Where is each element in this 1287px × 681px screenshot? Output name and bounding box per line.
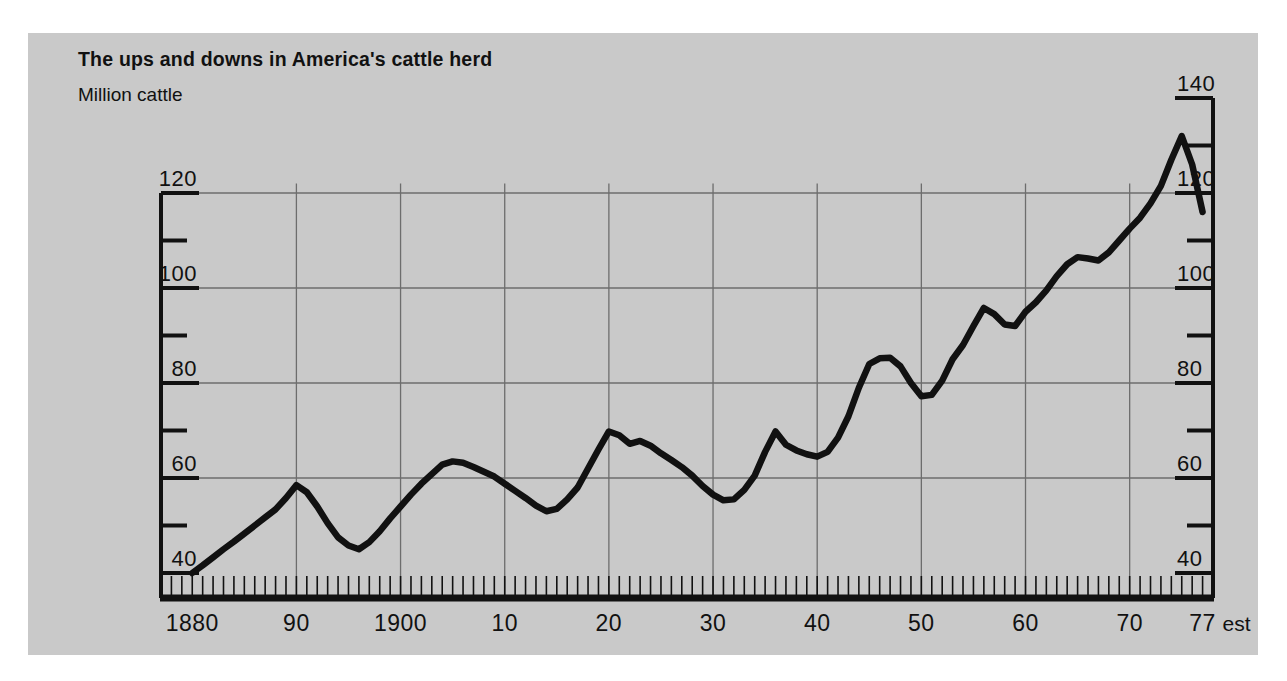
chart-page: The ups and downs in America's cattle he…	[0, 0, 1287, 681]
x-axis-label: 1880	[166, 610, 219, 637]
y-axis-label-left: 40	[172, 546, 197, 572]
data-series-group	[192, 136, 1202, 573]
y-axis-label-right: 140	[1177, 71, 1215, 97]
x-axis-est-annotation: est	[1223, 612, 1251, 636]
x-axis-label: 10	[491, 610, 518, 637]
x-axis-label: 50	[908, 610, 935, 637]
x-axis-label: 90	[283, 610, 310, 637]
x-axis-label: 20	[596, 610, 623, 637]
x-axis-label: 1900	[374, 610, 427, 637]
y-axis-label-right: 80	[1177, 356, 1202, 382]
y-axis-label-left: 80	[172, 356, 197, 382]
y-axis-label-right: 100	[1177, 261, 1215, 287]
data-line-cattle-herd	[192, 136, 1202, 573]
chart-plot-area	[0, 0, 1287, 681]
y-axis-label-left: 100	[159, 261, 197, 287]
gridlines-group	[161, 184, 1213, 599]
y-axis-label-left: 120	[159, 166, 197, 192]
y-axis-label-right: 40	[1177, 546, 1202, 572]
x-axis-label: 70	[1116, 610, 1143, 637]
x-axis-label: 40	[804, 610, 831, 637]
y-axis-label-right: 120	[1177, 166, 1215, 192]
axes-group	[160, 98, 1214, 598]
x-axis-label: 77	[1189, 610, 1216, 637]
y-axis-label-left: 60	[172, 451, 197, 477]
y-axis-label-right: 60	[1177, 451, 1202, 477]
x-axis-label: 30	[700, 610, 727, 637]
x-axis-label: 60	[1012, 610, 1039, 637]
